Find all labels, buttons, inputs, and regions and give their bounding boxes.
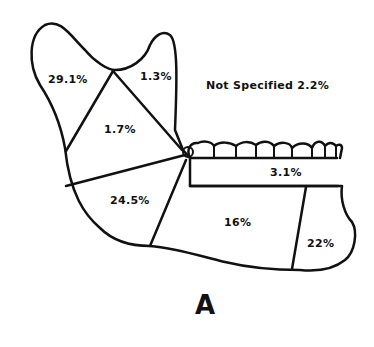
ramus-value: 1.7% <box>104 123 136 136</box>
symphysis-value: 22% <box>307 237 334 250</box>
body-value: 16% <box>224 216 251 229</box>
teeth-row <box>188 142 342 158</box>
coronoid-value: 1.3% <box>140 70 172 83</box>
condyle-value: 29.1% <box>48 73 88 86</box>
not-specified-label: Not Specified 2.2% <box>206 79 329 92</box>
mandible-outline <box>32 23 356 270</box>
panel-label: A <box>195 290 215 320</box>
ramus-angle-divider <box>66 155 185 186</box>
angle-body-divider <box>150 160 186 246</box>
mandible-diagram <box>0 0 374 347</box>
angle-value: 24.5% <box>110 194 150 207</box>
alveolar-value: 3.1% <box>270 166 302 179</box>
body-symphysis-divider <box>292 187 306 269</box>
